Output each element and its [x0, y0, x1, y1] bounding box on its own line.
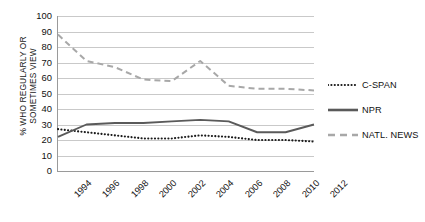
- series-line: [58, 35, 314, 91]
- y-axis-tick-label: 90: [22, 27, 52, 37]
- x-axis-tick-label: 1998: [129, 178, 151, 200]
- y-axis-tick-label: 30: [22, 120, 52, 130]
- y-axis-tick-label: 0: [22, 166, 52, 176]
- y-axis-tick-labels: 0102030405060708090100: [22, 11, 52, 175]
- y-axis-tick-label: 80: [22, 42, 52, 52]
- dashed-line-icon: [328, 130, 358, 140]
- x-axis-tick-label: 2010: [300, 178, 322, 200]
- x-axis-tick-label: 2008: [271, 178, 293, 200]
- legend-item-c-span: C-SPAN: [328, 72, 424, 97]
- series-line: [58, 120, 314, 137]
- y-axis-tick-label: 60: [22, 73, 52, 83]
- y-axis-tick-label: 10: [22, 151, 52, 161]
- solid-line-icon: [328, 105, 358, 115]
- x-axis-tick-label: 2004: [214, 178, 236, 200]
- x-axis-tick-labels: 1994199619982000200220042006200820102012: [57, 172, 313, 218]
- y-axis-tick-label: 100: [22, 11, 52, 21]
- plot-area: [57, 16, 314, 172]
- legend-item-label: NATL. NEWS: [362, 130, 418, 140]
- legend-item-label: C-SPAN: [362, 80, 397, 90]
- legend-item-natl-news: NATL. NEWS: [328, 122, 424, 147]
- y-axis-tick-label: 70: [22, 58, 52, 68]
- y-axis-tick-label: 40: [22, 104, 52, 114]
- series-line: [58, 129, 314, 141]
- legend-item-npr: NPR: [328, 97, 424, 122]
- legend: C-SPANNPRNATL. NEWS: [328, 72, 424, 147]
- x-axis-tick-label: 2006: [243, 178, 265, 200]
- legend-item-label: NPR: [362, 105, 382, 115]
- x-axis-tick-label: 1996: [100, 178, 122, 200]
- y-axis-tick-label: 20: [22, 135, 52, 145]
- x-axis-tick-label: 1994: [72, 178, 94, 200]
- x-axis-tick-label: 2012: [328, 178, 350, 200]
- series-container: [58, 16, 314, 171]
- y-axis-tick-label: 50: [22, 89, 52, 99]
- x-axis-tick-label: 2002: [186, 178, 208, 200]
- x-axis-tick-label: 2000: [157, 178, 179, 200]
- line-chart: % WHO REGULARLY OR SOMETIMES VIEW 010203…: [0, 0, 425, 222]
- dotted-line-icon: [328, 80, 358, 90]
